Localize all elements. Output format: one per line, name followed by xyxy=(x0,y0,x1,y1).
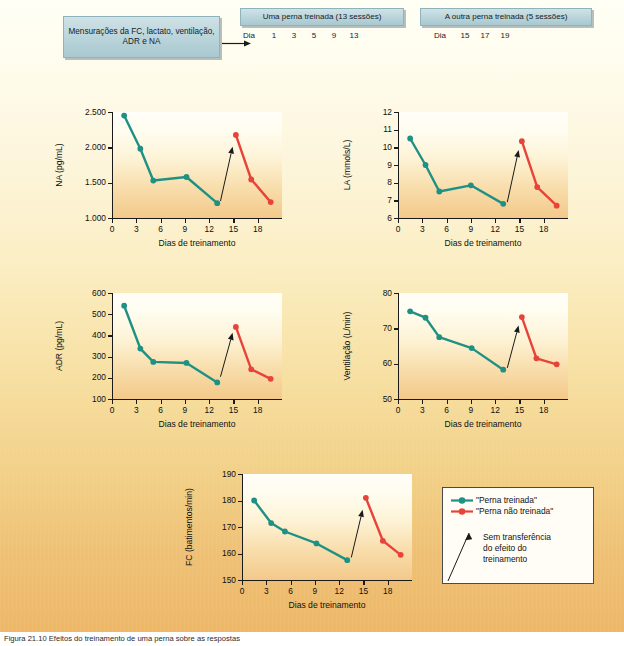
data-point xyxy=(251,498,257,504)
leg2-day-2: 19 xyxy=(495,31,515,40)
series-line xyxy=(236,135,271,202)
data-point xyxy=(500,367,506,373)
data-point xyxy=(314,541,320,547)
series-layer-vent xyxy=(336,285,584,433)
data-point xyxy=(184,174,190,180)
data-point xyxy=(268,520,274,526)
data-point xyxy=(344,557,350,563)
annotation-arrow-head-icon xyxy=(228,147,234,154)
y-axis-title: LA (mmols/L) xyxy=(342,112,352,218)
legend-note: Sem transferência do efeito do treinamen… xyxy=(483,532,551,566)
series-line xyxy=(522,317,557,364)
y-axis-title: FC (batimentos/min) xyxy=(184,474,194,580)
figure-caption: Figura 21.10 Efeitos do treinamento de u… xyxy=(4,634,434,645)
data-point xyxy=(534,355,540,361)
series-line xyxy=(124,116,217,204)
data-point xyxy=(268,199,274,205)
chart-na: 1.0001.5002.0002.5000369121518NA (pg/mL)… xyxy=(46,104,298,252)
data-point xyxy=(248,177,254,183)
leg1-day-label: Dia xyxy=(243,31,255,40)
leg1-title-box: Uma perna treinada (13 sessões) xyxy=(240,8,404,26)
data-point xyxy=(519,314,525,320)
data-point xyxy=(214,200,220,206)
measurements-box: Mensurações da FC, lactato, ventilação, … xyxy=(63,16,220,58)
legend-label-untrained: "Perna não treinada" xyxy=(476,506,553,516)
legend-arrow-icon xyxy=(446,526,480,582)
data-point xyxy=(423,162,429,168)
data-point xyxy=(436,334,442,340)
data-point xyxy=(363,495,369,501)
series-line xyxy=(410,139,503,204)
data-point xyxy=(137,146,143,152)
legend-note-line3: treinamento xyxy=(483,554,551,565)
data-point xyxy=(150,359,156,365)
data-point xyxy=(233,324,239,330)
leg2-title-box: A outra perna treinada (5 sessões) xyxy=(420,8,592,26)
annotation-arrow-head-icon xyxy=(514,326,520,334)
annotation-arrow-line xyxy=(220,340,230,377)
figure-root: Mensurações da FC, lactato, ventilação, … xyxy=(0,0,624,646)
annotation-arrow-head-icon xyxy=(228,333,234,341)
data-point xyxy=(398,552,404,558)
data-point xyxy=(137,346,143,352)
data-point xyxy=(534,184,540,190)
x-axis-title: Dias de treinamento xyxy=(72,238,322,248)
series-line xyxy=(124,306,217,383)
annotation-arrow-head-icon xyxy=(358,510,364,517)
legend-marker-trained-icon xyxy=(451,496,473,505)
data-point xyxy=(469,345,475,351)
y-axis-title: NA (pg/mL) xyxy=(54,112,64,218)
x-axis-title: Dias de treinamento xyxy=(72,419,322,429)
data-point xyxy=(423,315,429,321)
data-point xyxy=(282,529,288,535)
data-point xyxy=(268,376,274,382)
chart-la: 67891011120369121518LA (mmols/L)Dias de … xyxy=(336,104,584,252)
data-point xyxy=(121,303,127,309)
data-point xyxy=(519,138,525,144)
y-axis-title: ADR (pg/mL) xyxy=(54,293,64,399)
x-axis-title: Dias de treinamento xyxy=(358,238,608,248)
flow-arrow-icon xyxy=(222,39,252,48)
legend-note-line1: Sem transferência xyxy=(483,532,551,543)
data-point xyxy=(554,361,560,367)
y-axis-title: Ventilação (L/min) xyxy=(342,293,352,399)
data-point xyxy=(407,136,413,142)
series-line xyxy=(366,498,401,555)
data-point xyxy=(436,189,442,195)
leg2-day-0: 15 xyxy=(455,31,475,40)
leg2-days-row: Dia151719 xyxy=(434,31,515,40)
data-point xyxy=(468,182,474,188)
series-layer-na xyxy=(46,104,298,252)
leg1-day-4: 13 xyxy=(344,31,364,40)
x-axis-title: Dias de treinamento xyxy=(358,419,608,429)
data-point xyxy=(233,132,239,138)
data-point xyxy=(150,178,156,184)
series-layer-la xyxy=(336,104,584,252)
leg2-day-1: 17 xyxy=(475,31,495,40)
legend-marker-untrained-icon xyxy=(451,507,473,516)
data-point xyxy=(214,380,220,386)
x-axis-title: Dias de treinamento xyxy=(202,600,452,610)
series-layer-fc xyxy=(176,466,428,614)
series-layer-adr xyxy=(46,285,298,433)
legend-box: "Perna treinada" "Perna não treinada" Se… xyxy=(442,487,594,584)
annotation-arrow-line xyxy=(351,517,361,558)
data-point xyxy=(380,538,386,544)
annotation-arrow-line xyxy=(507,332,517,368)
data-point xyxy=(407,308,413,314)
leg1-day-1: 3 xyxy=(284,31,304,40)
data-point xyxy=(184,360,190,366)
chart-ventilacao: 506070800369121518Ventilação (L/min)Dias… xyxy=(336,285,584,433)
annotation-arrow-head-icon xyxy=(514,150,520,157)
leg1-day-2: 5 xyxy=(304,31,324,40)
series-line xyxy=(254,501,347,561)
legend-row-trained: "Perna treinada" xyxy=(451,495,585,505)
legend-note-line2: do efeito do xyxy=(483,543,551,554)
leg1-days-row: Dia135913 xyxy=(243,31,364,40)
leg2-day-label: Dia xyxy=(434,31,446,40)
leg1-day-3: 9 xyxy=(324,31,344,40)
data-point xyxy=(500,201,506,207)
data-point xyxy=(248,366,254,372)
chart-fc: 1501601701801900369121518FC (batimentos/… xyxy=(176,466,428,614)
legend-row-untrained: "Perna não treinada" xyxy=(451,506,585,516)
